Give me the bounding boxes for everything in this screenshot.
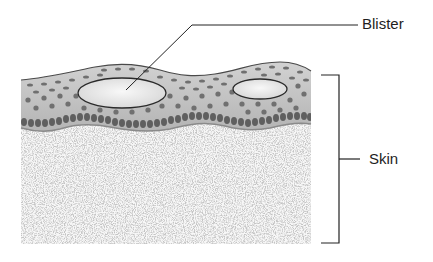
skin-blister-diagram: Blister Skin [0,0,433,262]
blister-small [233,79,287,99]
skin-label: Skin [369,150,398,167]
diagram-canvas [0,0,433,262]
skin-bracket [321,75,360,243]
blister-label: Blister [362,15,404,32]
blister-large [78,78,166,108]
dermis-layer [21,120,311,244]
